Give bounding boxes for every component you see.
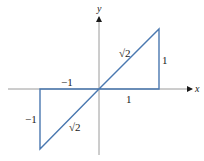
upper-triangle <box>99 29 159 89</box>
upper-hypotenuse-label: √2 <box>119 47 131 59</box>
lower-hypotenuse-label: √2 <box>69 121 81 133</box>
y-axis-label: y <box>96 3 102 14</box>
upper-vertical-leg-label: 1 <box>162 54 168 66</box>
lower-triangle <box>40 89 99 149</box>
lower-vertical-leg-label: −1 <box>25 113 37 125</box>
coordinate-diagram: y x √2 1 1 −1 −1 √2 <box>0 0 204 161</box>
upper-horizontal-leg-label: 1 <box>126 93 132 105</box>
x-axis-label: x <box>194 83 200 94</box>
lower-horizontal-leg-label: −1 <box>61 76 73 88</box>
